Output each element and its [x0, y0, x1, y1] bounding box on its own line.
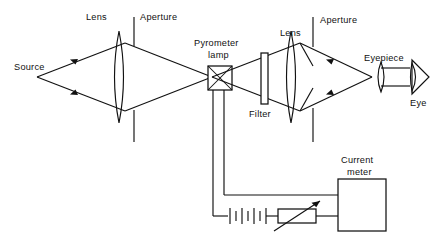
label-lens-left: Lens — [86, 12, 107, 22]
optical-pyrometer-diagram: Source Lens Aperture Pyrometer lamp Filt… — [0, 0, 447, 249]
label-source: Source — [14, 62, 45, 72]
label-aperture-right: Aperture — [320, 15, 357, 25]
label-eyepiece: Eyepiece — [364, 53, 404, 63]
eye-symbol — [411, 60, 430, 94]
ray-bundle-source-to-lamp — [37, 43, 212, 111]
label-aperture-left: Aperture — [140, 12, 177, 22]
label-lens-right: Lens — [280, 28, 301, 38]
label-pyrometer-lamp-line2: lamp — [208, 50, 229, 60]
battery-symbol — [230, 208, 278, 224]
label-current-meter-line1: Current — [341, 155, 374, 165]
eyepiece-lens — [378, 62, 384, 92]
rheostat-symbol — [274, 201, 338, 231]
label-filter: Filter — [249, 109, 271, 119]
label-eye: Eye — [410, 98, 427, 108]
diagram-canvas: Source Lens Aperture Pyrometer lamp Filt… — [0, 0, 447, 249]
ray-bundle-to-eyepiece — [300, 43, 372, 111]
parallel-beam-to-eye — [381, 68, 410, 86]
label-current-meter-line2: meter — [347, 167, 372, 177]
label-pyrometer-lamp-line1: Pyrometer — [194, 38, 239, 48]
pyrometer-lamp — [208, 66, 232, 90]
filter-plate — [261, 53, 268, 104]
lamp-leads — [213, 90, 338, 216]
current-meter-box — [338, 179, 386, 231]
